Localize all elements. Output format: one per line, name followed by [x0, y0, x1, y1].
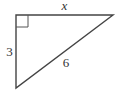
hypotenuse-label: 6 [63, 55, 70, 70]
right-triangle-diagram: x 3 6 [0, 0, 120, 98]
top-side-label: x [61, 0, 68, 13]
right-angle-marker [16, 15, 28, 27]
triangle-outline [16, 15, 113, 88]
left-side-label: 3 [6, 44, 13, 59]
